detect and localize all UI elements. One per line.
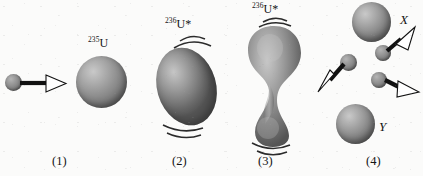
fragment-y-label: Y xyxy=(379,120,386,133)
u236-element-symbol-stage3: U* xyxy=(264,2,279,16)
neutron-1 xyxy=(340,54,357,71)
stage-caption-3: (3) xyxy=(258,154,273,169)
u235-label: 235U xyxy=(88,36,108,49)
neutron-3 xyxy=(371,72,387,88)
stage-caption-4: (4) xyxy=(366,154,381,169)
u236-excited-ellipsoid xyxy=(147,40,225,132)
u236-dumbbell xyxy=(243,24,307,148)
u236-mass-number-stage2: 236 xyxy=(165,16,177,25)
vibration-arcs-bottom-stage2 xyxy=(157,121,209,141)
u235-mass-number: 235 xyxy=(88,35,100,44)
fission-diagram: 235U 236U* xyxy=(0,0,423,176)
incident-neutron xyxy=(5,74,22,91)
u236-label-stage3: 236U* xyxy=(252,2,278,15)
vibration-arcs-top-stage2 xyxy=(168,30,216,50)
u236-label-stage2: 236U* xyxy=(165,17,191,30)
neutron-2 xyxy=(375,45,391,61)
fragment-y xyxy=(336,104,375,144)
incident-neutron-arrow xyxy=(20,75,66,92)
u236-element-symbol-stage2: U* xyxy=(177,17,192,31)
fragment-x xyxy=(352,2,391,42)
u235-nucleus xyxy=(76,56,127,108)
stage-caption-2: (2) xyxy=(172,154,187,169)
neutron-2-arrow xyxy=(387,27,415,51)
stage-caption-1: (1) xyxy=(52,154,67,169)
neutron-1-arrow xyxy=(318,64,344,92)
neutron-3-arrow xyxy=(385,80,419,97)
fragment-x-label: X xyxy=(400,13,408,26)
u236-mass-number-stage3: 236 xyxy=(252,1,264,10)
u235-element-symbol: U xyxy=(100,36,109,50)
